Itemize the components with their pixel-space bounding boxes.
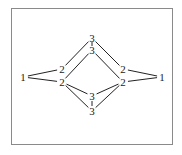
node-label-B3d: 3: [89, 105, 95, 117]
edge-L1-LL2: [28, 78, 57, 82]
node-label-B3c: 3: [89, 90, 95, 102]
node-label-T3a: 3: [89, 32, 95, 44]
edge-L1-UL2: [28, 70, 57, 76]
node-label-LL2: 2: [59, 76, 65, 88]
node-label-UL2: 2: [59, 63, 65, 75]
edge-UL2-T3a: [65, 42, 88, 66]
edge-R1-UR2: [128, 70, 157, 76]
node-label-UR2: 2: [120, 63, 126, 75]
edge-LL2-T3b: [65, 54, 88, 79]
graph-nodes: 1122223333: [20, 32, 165, 117]
node-label-T3b: 3: [89, 44, 95, 56]
node-label-L1: 1: [20, 71, 26, 83]
edge-T3b-LR2: [95, 54, 119, 79]
node-label-LR2: 2: [120, 76, 126, 88]
graph-canvas: 1122223333: [0, 0, 182, 155]
edge-R1-LR2: [128, 78, 157, 82]
node-label-R1: 1: [159, 71, 165, 83]
edge-T3a-UR2: [96, 42, 120, 66]
